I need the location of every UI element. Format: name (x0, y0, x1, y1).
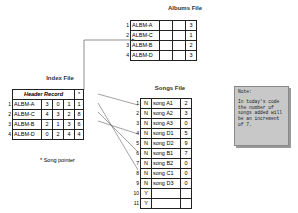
pointer-arrows (0, 0, 298, 213)
